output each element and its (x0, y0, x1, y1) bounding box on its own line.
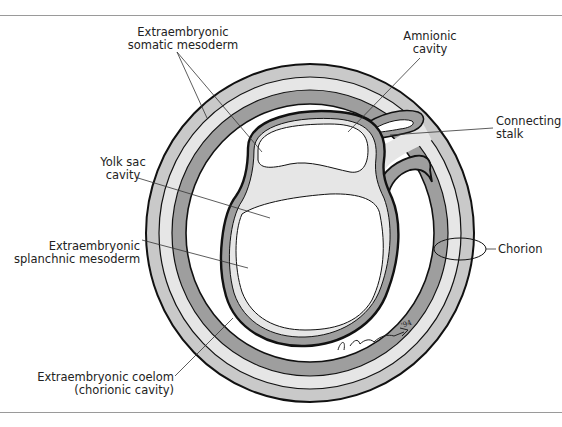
label-splanchnic-mesoderm: Extraembryonic splanchnic mesoderm (14, 240, 140, 266)
label-somatic-mesoderm: Extraembryonic somatic mesoderm (118, 26, 248, 52)
embryo-diagram: '94 (0, 0, 562, 427)
label-extraembryonic-coelom: Extraembryonic coelom (chorionic cavity) (24, 371, 174, 397)
label-connecting-stalk: Connecting stalk (496, 115, 562, 141)
label-yolk-sac-cavity: Yolk sac cavity (88, 156, 158, 182)
embryo (221, 111, 398, 346)
label-amnionic-cavity: Amnionic cavity (395, 30, 465, 56)
label-chorion: Chorion (498, 243, 558, 256)
